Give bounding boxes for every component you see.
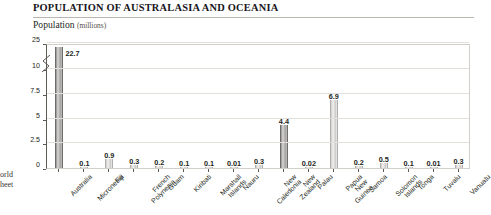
bar-value-label: 0.9 xyxy=(100,152,118,160)
bar-column[interactable] xyxy=(80,43,88,168)
header-divider xyxy=(33,17,474,18)
bar-value-label: 0.3 xyxy=(450,158,468,166)
bar-column[interactable] xyxy=(105,43,113,168)
x-axis-label-palau: Palau xyxy=(316,173,334,191)
x-axis-tick-mark xyxy=(158,169,159,172)
x-axis-tick-mark xyxy=(133,169,134,172)
gridline xyxy=(47,118,469,119)
y-axis-tick-mark xyxy=(43,44,46,45)
x-axis-tick-mark xyxy=(283,169,284,172)
x-axis-tick-mark xyxy=(208,169,209,172)
x-axis-tick-mark xyxy=(233,169,234,172)
bar-australia[interactable] xyxy=(55,47,63,168)
bar-papua-new-guinea[interactable] xyxy=(330,100,338,168)
bar-column[interactable] xyxy=(130,43,138,168)
x-axis-label-kiribati: Kiribati xyxy=(192,173,212,193)
cropped-note-line-1: orld xyxy=(0,170,13,180)
bar-column[interactable] xyxy=(330,43,338,168)
y-axis-title: Population (millions) xyxy=(33,19,106,30)
gridline xyxy=(47,42,469,43)
bar-value-label: 0.1 xyxy=(400,160,418,168)
y-axis-tick-mark xyxy=(43,120,46,121)
bar-value-label: 22.7 xyxy=(65,50,79,58)
y-axis-tick-label: 10 xyxy=(0,62,40,70)
bar-value-label: 0.2 xyxy=(150,159,168,167)
y-axis-title-text: Population xyxy=(33,19,75,30)
bar-value-label: 0.1 xyxy=(75,160,93,168)
gridline xyxy=(47,68,469,69)
x-axis-label-tonga: Tonga xyxy=(416,173,435,192)
y-axis-tick-label: 0 xyxy=(0,161,40,169)
x-axis-tick-mark xyxy=(83,169,84,172)
bar-series: 22.70.10.90.30.20.10.10.010.34.40.026.90… xyxy=(47,45,469,168)
y-axis-tick-label: 7.5 xyxy=(0,87,40,95)
bar-column[interactable] xyxy=(255,43,263,168)
bar-column[interactable] xyxy=(280,43,288,168)
x-axis-tick-mark xyxy=(383,169,384,172)
x-axis-tick-mark xyxy=(433,169,434,172)
bar-value-label: 0.01 xyxy=(425,160,443,168)
x-axis-tick-mark xyxy=(58,169,59,172)
bar-fiji[interactable] xyxy=(105,159,113,168)
bar-column[interactable] xyxy=(430,43,438,168)
bar-value-label: 0.02 xyxy=(300,160,318,168)
bar-new-zealand[interactable] xyxy=(280,125,288,168)
bar-column[interactable] xyxy=(180,43,188,168)
y-axis-tick-mark xyxy=(43,95,46,96)
bar-column[interactable] xyxy=(230,43,238,168)
bar-column[interactable] xyxy=(155,43,163,168)
gridline xyxy=(47,93,469,94)
bar-value-label: 0.2 xyxy=(350,159,368,167)
bar-column[interactable] xyxy=(205,43,213,168)
bar-value-label: 6.9 xyxy=(325,93,343,101)
chart-plot-area: 22.70.10.90.30.20.10.10.010.34.40.026.90… xyxy=(46,44,470,169)
header: POPULATION OF AUSTRALASIA AND OCEANIA xyxy=(33,2,475,14)
y-axis-tick-mark xyxy=(43,169,46,170)
bar-value-label: 0.01 xyxy=(225,160,243,168)
axis-break-icon xyxy=(41,54,52,74)
bar-column[interactable] xyxy=(305,43,313,168)
page-title: POPULATION OF AUSTRALASIA AND OCEANIA xyxy=(33,2,475,14)
x-axis-tick-mark xyxy=(333,169,334,172)
cropped-note-line-2: heet xyxy=(0,180,13,190)
x-axis-tick-mark xyxy=(358,169,359,172)
bar-value-label: 0.3 xyxy=(125,158,143,166)
bar-column[interactable] xyxy=(455,43,463,168)
x-axis-label-nauru: Nauru xyxy=(242,173,261,192)
bar-column[interactable] xyxy=(355,43,363,168)
x-axis-label-tuvalu: Tuvalu xyxy=(442,173,462,193)
bar-value-label: 0.1 xyxy=(175,160,193,168)
y-axis-tick-label: 2.5 xyxy=(0,136,40,144)
x-axis-tick-mark xyxy=(183,169,184,172)
y-axis-unit: (millions) xyxy=(77,21,106,30)
x-axis-label-vanuatu: Vanuatu xyxy=(468,173,491,196)
y-axis-tick-label: 5 xyxy=(0,112,40,120)
cropped-corner-note: orld heet xyxy=(0,170,13,189)
bar-value-label: 4.4 xyxy=(275,118,293,126)
bar-value-label: 0.1 xyxy=(200,160,218,168)
bar-value-label: 0.5 xyxy=(375,156,393,164)
bar-value-label: 0.3 xyxy=(250,158,268,166)
gridline xyxy=(47,142,469,143)
x-axis-tick-mark xyxy=(258,169,259,172)
x-axis-tick-mark xyxy=(308,169,309,172)
y-axis-tick-label: 25 xyxy=(0,36,40,44)
x-axis-tick-mark xyxy=(408,169,409,172)
bar-column[interactable] xyxy=(55,43,63,168)
bar-column[interactable] xyxy=(380,43,388,168)
x-axis-tick-mark xyxy=(458,169,459,172)
bar-column[interactable] xyxy=(405,43,413,168)
x-axis-label-australia: Australia xyxy=(69,173,93,197)
x-axis-tick-mark xyxy=(108,169,109,172)
y-axis-tick-mark xyxy=(43,144,46,145)
